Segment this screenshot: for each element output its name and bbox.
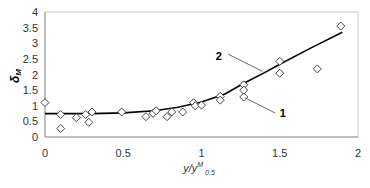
x-tick-label: 0: [42, 147, 48, 159]
y-tick-label: 1.5: [23, 84, 38, 96]
y-tick-label: 2: [32, 69, 38, 81]
y-tick-label: 3.5: [23, 22, 38, 34]
x-tick-labels: 00.511.52: [42, 147, 361, 159]
x-tick-label: 2: [355, 147, 361, 159]
y-tick-label: 2.5: [23, 53, 38, 65]
y-tick-label: 0.5: [23, 115, 38, 127]
x-tick-label: 1: [198, 147, 204, 159]
series-label: 1: [280, 107, 286, 119]
y-tick-label: 0: [32, 131, 38, 143]
y-tick-label: 4: [32, 6, 38, 18]
y-tick-label: 3: [32, 37, 38, 49]
y-axis-label: δM: [8, 69, 23, 83]
x-tick-label: 1.5: [272, 147, 287, 159]
x-axis-label: y/yM0.5: [182, 161, 215, 176]
series-label: 2: [216, 50, 222, 62]
x-tick-label: 0.5: [116, 147, 131, 159]
y-tick-label: 1: [32, 100, 38, 112]
y-tick-labels: 00.511.522.533.54: [23, 6, 38, 143]
plot-area: [45, 12, 358, 137]
chart: 00.511.522.533.54 00.511.52 12 δM y/yM0.…: [0, 0, 370, 188]
